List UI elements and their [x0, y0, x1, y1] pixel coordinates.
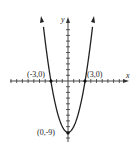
curve-arrow-left-icon	[40, 16, 44, 23]
left-root-label: (-3,0)	[27, 70, 45, 79]
vertex-label: (0,-9)	[37, 128, 55, 137]
curve-arrow-right-icon	[91, 16, 95, 23]
root-left-point	[49, 79, 52, 82]
vertex-point	[66, 131, 69, 134]
x-axis-label: x	[125, 71, 130, 80]
axis-ticks	[11, 30, 119, 138]
y-axis-arrow-icon	[66, 17, 70, 23]
y-axis-label: y	[60, 15, 65, 24]
root-right-point	[83, 79, 86, 82]
right-root-label: (3,0)	[87, 70, 103, 79]
parabola-graph: (-3,0) (3,0) (0,-9) x y	[0, 0, 134, 154]
